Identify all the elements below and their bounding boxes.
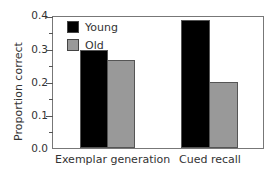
bar-young-cued-recall <box>181 20 210 148</box>
y-tick <box>46 116 53 117</box>
y-tick-label: 0.1 <box>18 109 48 121</box>
bar-old-exemplar-generation <box>107 60 135 148</box>
y-minor-tick <box>49 66 53 67</box>
y-tick <box>46 50 53 51</box>
bar-young-exemplar-generation <box>80 50 108 148</box>
y-minor-tick <box>49 33 53 34</box>
y-tick-label: 0.0 <box>18 142 48 154</box>
y-minor-tick <box>49 99 53 100</box>
legend-label: Old <box>85 39 104 52</box>
plot-area: Young Old <box>52 16 264 149</box>
legend-swatch-old <box>67 39 79 51</box>
y-minor-tick <box>49 132 53 133</box>
y-tick <box>46 83 53 84</box>
legend-swatch-young <box>67 21 79 33</box>
x-category-label: Exemplar generation <box>55 153 165 166</box>
legend: Young Old <box>67 18 118 54</box>
bar-old-cued-recall <box>209 82 238 148</box>
legend-label: Young <box>85 21 118 34</box>
y-tick <box>46 17 53 18</box>
y-axis-title: Proportion correct <box>12 42 25 142</box>
legend-item-old: Old <box>67 36 118 54</box>
y-tick-label: 0.4 <box>18 9 48 21</box>
y-tick-label: 0.2 <box>18 76 48 88</box>
y-tick-label: 0.3 <box>18 43 48 55</box>
x-category-label: Cued recall <box>160 153 260 166</box>
legend-item-young: Young <box>67 18 118 36</box>
